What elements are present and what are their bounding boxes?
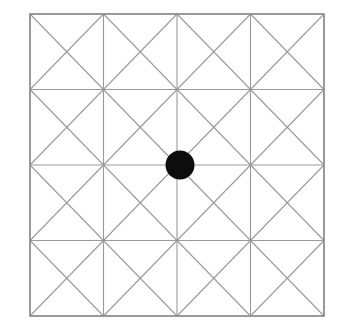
center-dot[interactable] <box>166 151 195 180</box>
center-dot-layer[interactable] <box>166 151 195 180</box>
grid-figure-svg <box>0 0 339 333</box>
figure-canvas <box>0 0 339 333</box>
